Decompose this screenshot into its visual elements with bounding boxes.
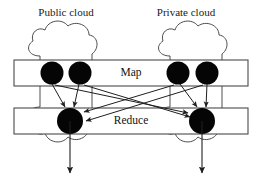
diagram-canvas: Public cloud Private cloud Map Reduce: [0, 0, 263, 189]
map-node-4: [196, 62, 219, 85]
map-node-1: [41, 62, 64, 85]
edge-map1-to-reduce1: [52, 84, 65, 107]
private-cloud-label: Private cloud: [157, 6, 216, 18]
reduce-stage-label: Reduce: [114, 114, 148, 126]
map-node-3: [167, 62, 190, 85]
edge-map4-to-reduce2: [206, 84, 207, 107]
edge-map2-to-reduce1: [74, 84, 79, 107]
map-node-2: [69, 62, 92, 85]
public-cloud-label: Public cloud: [38, 6, 94, 18]
mapreduce-cloud-diagram: Public cloud Private cloud Map Reduce: [0, 0, 263, 189]
map-stage-label: Map: [120, 66, 141, 79]
